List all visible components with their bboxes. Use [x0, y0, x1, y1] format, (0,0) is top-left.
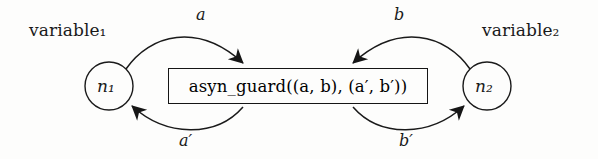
node-label-n1: n₁: [97, 78, 115, 95]
node-label-n2: n₂: [475, 78, 493, 95]
edge-label-a-prime: a′: [179, 133, 192, 149]
diagram-canvas: variable₁ variable₂ n₁ n₂ asyn_guard((a,…: [0, 0, 598, 159]
edge-label-b: b: [394, 7, 404, 23]
variable-label-right: variable₂: [482, 22, 560, 39]
guard-box-text: asyn_guard((a, b), (a′, b′)): [189, 77, 408, 96]
edge-path-b-prime: [353, 106, 464, 130]
variable-label-left: variable₁: [29, 22, 107, 39]
edge-path-b: [353, 37, 470, 69]
edge-path-a-prime: [132, 106, 243, 130]
guard-box: asyn_guard((a, b), (a′, b′)): [168, 68, 428, 104]
edge-label-b-prime: b′: [399, 133, 413, 149]
edge-label-a: a: [196, 7, 206, 23]
edge-path-a: [126, 37, 243, 69]
